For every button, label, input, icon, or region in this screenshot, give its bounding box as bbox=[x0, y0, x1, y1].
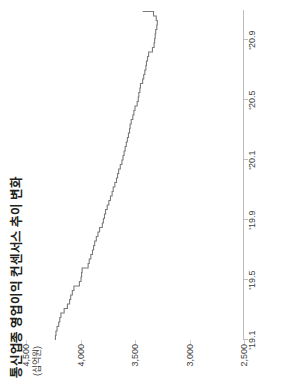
y-axis-tick-label: 3,500 bbox=[130, 344, 140, 384]
series-line-consensus bbox=[26, 10, 244, 340]
x-axis-tick-label: '19.1 bbox=[247, 330, 257, 349]
plot-area: 2,5003,0003,5004,0004,500'19.1'19.5'19.9… bbox=[26, 10, 244, 340]
y-axis-unit-label: (십억원) bbox=[30, 346, 43, 376]
y-axis-tick-label: 4,000 bbox=[76, 344, 86, 384]
chart-stage: 통신업종 영업이익 컨센서스 추이 변화 (십억원) 2,5003,0003,5… bbox=[0, 0, 282, 392]
x-axis-tick-label: '20.1 bbox=[247, 150, 257, 169]
y-axis-tick-label: 4,500 bbox=[21, 344, 31, 384]
x-axis-tick-label: '19.9 bbox=[247, 210, 257, 229]
x-axis-tick-label: '20.9 bbox=[247, 30, 257, 49]
y-axis-tick-label: 3,000 bbox=[185, 344, 195, 384]
x-axis-tick-label: '20.5 bbox=[247, 90, 257, 109]
x-axis-tick-label: '19.5 bbox=[247, 270, 257, 289]
y-axis-tick-label: 2,500 bbox=[239, 344, 249, 384]
